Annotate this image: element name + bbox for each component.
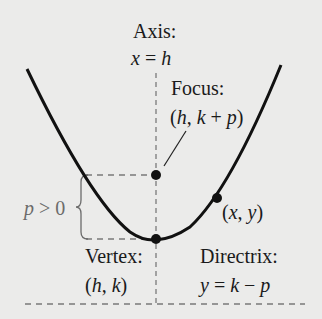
focus-coordinates: (h, k + p) — [170, 106, 244, 129]
p-brace — [76, 175, 88, 239]
directrix-title: Directrix: — [200, 245, 278, 267]
axis-equation: x = h — [130, 47, 171, 69]
vertex-point — [151, 234, 161, 244]
general-point — [212, 193, 222, 203]
focus-leader-line — [164, 131, 186, 166]
focus-title: Focus: — [171, 77, 224, 99]
axis-title: Axis: — [133, 20, 176, 42]
vertex-coordinates: (h, k) — [85, 274, 127, 297]
p-condition: p > 0 — [22, 197, 65, 220]
vertex-title: Vertex: — [85, 245, 143, 267]
general-point-label: (x, y) — [222, 201, 263, 224]
directrix-equation: y = k − p — [198, 274, 270, 297]
parabola-diagram: Axis: x = h Focus: (h, k + p) p > 0 (x, … — [0, 0, 322, 319]
focus-point — [151, 170, 161, 180]
